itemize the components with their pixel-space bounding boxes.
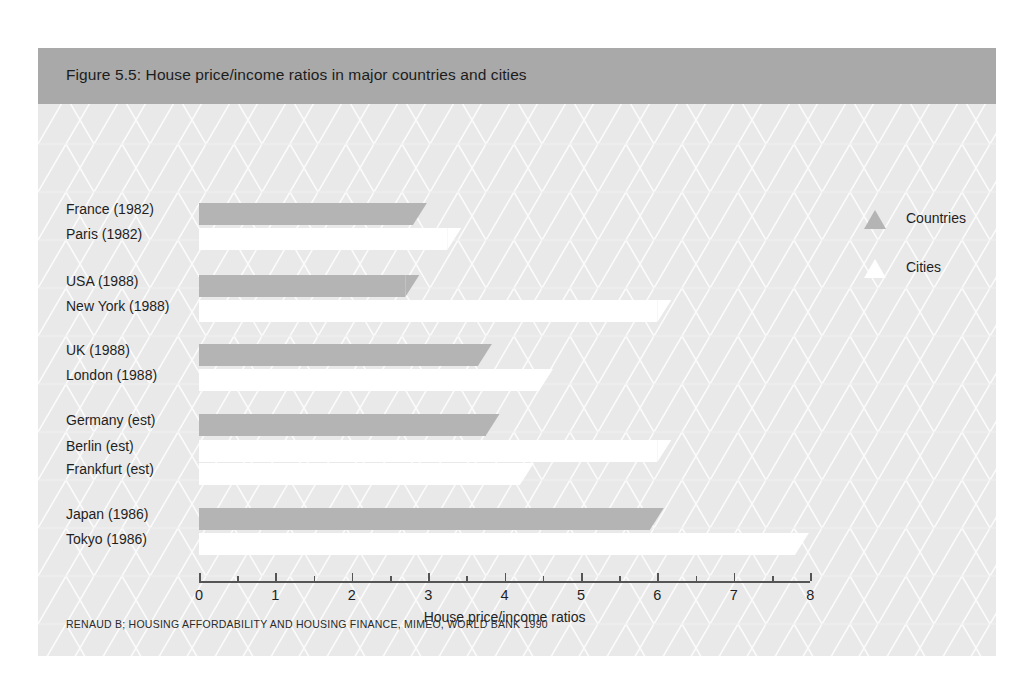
axis-tick-label: 3	[413, 587, 443, 603]
axis-tick-minor	[696, 576, 698, 581]
bar-slant-edge	[447, 228, 461, 250]
bar-slant-edge	[405, 275, 419, 297]
bar-fill	[199, 275, 405, 297]
axis-tick-minor	[237, 576, 239, 581]
bar-fill	[199, 344, 478, 366]
bar-fill	[199, 300, 657, 322]
bar-slant-edge	[539, 369, 553, 391]
legend-label-cities: Cities	[906, 259, 941, 275]
axis-tick-major	[734, 573, 736, 581]
axis-tick-minor	[390, 576, 392, 581]
figure-title: Figure 5.5: House price/income ratios in…	[66, 66, 527, 84]
category-label-new-york: New York (1988)	[66, 295, 170, 317]
category-label-japan: Japan (1986)	[66, 503, 149, 525]
category-label-frankfurt: Frankfurt (est)	[66, 458, 154, 480]
bar-slant-edge	[650, 508, 664, 530]
axis-tick-minor	[619, 576, 621, 581]
category-label-paris: Paris (1982)	[66, 223, 142, 245]
legend-label-countries: Countries	[906, 210, 966, 226]
axis-tick-major	[505, 573, 507, 581]
axis-tick-major	[657, 573, 659, 581]
bar-france-1982	[199, 203, 413, 225]
category-label-france: France (1982)	[66, 198, 154, 220]
axis-tick-minor	[772, 576, 774, 581]
triangle-up-icon	[864, 210, 886, 229]
bar-fill	[199, 508, 650, 530]
bar-slant-edge	[413, 203, 427, 225]
bar-slant-edge	[657, 300, 671, 322]
bar-new-york-1988	[199, 300, 657, 322]
source-note: RENAUD B; HOUSING AFFORDABILITY AND HOUS…	[66, 618, 548, 630]
bar-frankfurt-est	[199, 463, 520, 485]
bar-fill	[199, 414, 486, 436]
axis-tick-major	[428, 573, 430, 581]
bar-slant-edge	[520, 463, 534, 485]
bar-slant-edge	[657, 440, 671, 462]
axis-tick-label: 2	[337, 587, 367, 603]
bar-london-1988	[199, 369, 539, 391]
axis-line	[199, 581, 810, 583]
bar-usa-1988	[199, 275, 405, 297]
axis-tick-label: 1	[260, 587, 290, 603]
bar-fill	[199, 203, 413, 225]
category-label-usa: USA (1988)	[66, 270, 138, 292]
category-label-berlin: Berlin (est)	[66, 435, 134, 457]
axis-tick-major	[581, 573, 583, 581]
bar-slant-edge	[486, 414, 500, 436]
bar-fill	[199, 533, 795, 555]
axis-tick-major	[810, 573, 812, 581]
plot-area: France (1982) Paris (1982) USA (1988) Ne…	[38, 104, 996, 656]
axis-tick-major	[352, 573, 354, 581]
axis-tick-label: 7	[719, 587, 749, 603]
axis-tick-major	[275, 573, 277, 581]
axis-tick-major	[199, 573, 201, 581]
bar-slant-edge	[478, 344, 492, 366]
bar-berlin-est	[199, 440, 657, 462]
bar-fill	[199, 463, 520, 485]
axis-tick-label: 8	[795, 587, 825, 603]
bar-japan-1986	[199, 508, 650, 530]
axis-tick-label: 4	[490, 587, 520, 603]
axis-tick-minor	[466, 576, 468, 581]
bar-uk-1988	[199, 344, 478, 366]
category-label-uk: UK (1988)	[66, 339, 130, 361]
bar-fill	[199, 440, 657, 462]
bar-tokyo-1986	[199, 533, 795, 555]
category-label-london: London (1988)	[66, 364, 157, 386]
category-label-tokyo: Tokyo (1986)	[66, 528, 147, 550]
bar-slant-edge	[795, 533, 809, 555]
category-label-germany: Germany (est)	[66, 409, 155, 431]
axis-tick-label: 5	[566, 587, 596, 603]
axis-tick-minor	[543, 576, 545, 581]
bar-germany-est	[199, 414, 486, 436]
bar-fill	[199, 369, 539, 391]
axis-tick-label: 0	[184, 587, 214, 603]
triangle-up-icon	[864, 259, 886, 278]
figure-container: Figure 5.5: House price/income ratios in…	[38, 48, 996, 656]
axis-tick-label: 6	[642, 587, 672, 603]
bar-paris-1982	[199, 228, 447, 250]
axis-tick-minor	[314, 576, 316, 581]
bar-fill	[199, 228, 447, 250]
